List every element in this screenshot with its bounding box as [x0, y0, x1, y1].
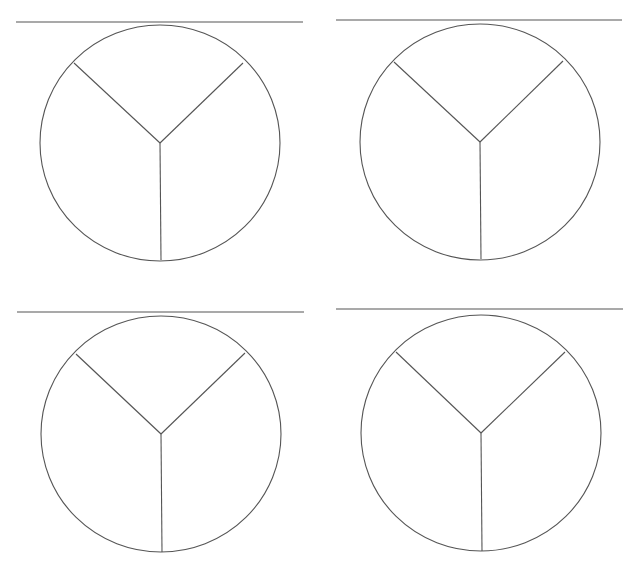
- pie-diagram-top-right: [336, 20, 622, 260]
- pie-divider-spoke-2: [480, 61, 563, 142]
- pie-diagram-top-left: [16, 22, 303, 261]
- pie-divider-spoke-3: [481, 433, 482, 551]
- pie-divider-spoke-1: [74, 63, 160, 143]
- pie-divider-spoke-2: [160, 63, 243, 143]
- pie-diagram-bottom-left: [17, 312, 304, 552]
- pie-divider-spoke-2: [481, 352, 565, 433]
- pie-divider-spoke-3: [161, 434, 162, 552]
- pie-divider-spoke-1: [394, 62, 480, 142]
- pie-divider-spoke-3: [160, 143, 161, 260]
- pie-divider-spoke-1: [396, 352, 481, 433]
- pie-diagram-bottom-right: [336, 309, 623, 551]
- pie-divider-spoke-2: [161, 353, 245, 434]
- pie-divider-spoke-1: [76, 354, 161, 434]
- pie-divider-spoke-3: [480, 142, 481, 259]
- pie-divider-sheet: [0, 0, 635, 568]
